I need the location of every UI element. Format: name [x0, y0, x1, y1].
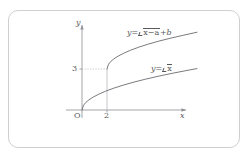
- math-figure: [0, 0, 251, 159]
- curve-base-sqrt-x: [82, 69, 197, 110]
- shifted-eq-prefix: y=: [127, 28, 138, 37]
- origin-label: O: [74, 112, 81, 120]
- x-axis-label: x: [180, 112, 185, 120]
- y-tick-label-3: 3: [72, 65, 77, 73]
- y-axis-label: y: [76, 19, 81, 27]
- radical-sign-icon: x: [162, 64, 172, 73]
- curves-group: [82, 32, 197, 110]
- base-eq-prefix: y=: [151, 64, 162, 73]
- shifted-eq-suffix: +b: [160, 28, 172, 37]
- shifted-curve-equation-label: y=x−a+b: [127, 28, 172, 37]
- x-tick-label-2: 2: [104, 112, 109, 120]
- base-curve-equation-label: y=x: [151, 64, 172, 73]
- base-eq-radicand: x: [167, 64, 173, 73]
- shifted-eq-radicand: x−a: [143, 28, 160, 37]
- radical-sign-icon: x−a: [138, 28, 160, 37]
